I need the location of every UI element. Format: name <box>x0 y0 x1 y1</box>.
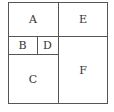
region-b: B <box>8 36 37 54</box>
region-f: F <box>58 36 108 104</box>
region-a: A <box>8 2 58 36</box>
region-c: C <box>8 54 58 104</box>
region-d: D <box>37 36 58 54</box>
region-e: E <box>58 2 108 36</box>
